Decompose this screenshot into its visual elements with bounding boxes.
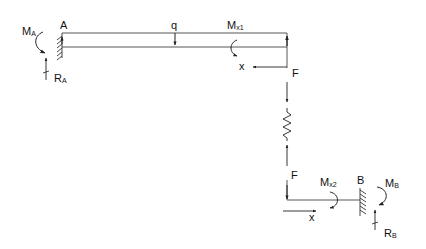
label-moment-mx1-main: M <box>227 19 236 31</box>
label-moment-mx2-main: M <box>320 176 329 188</box>
moment-ma-icon <box>36 32 45 53</box>
label-moment-ma-main: M <box>22 25 31 37</box>
label-reaction-rb-sub: B <box>392 232 397 239</box>
label-moment-mx1-sub: x1 <box>236 24 243 31</box>
spring-icon <box>283 108 291 141</box>
label-reaction-rb: RB <box>384 228 397 239</box>
label-moment-mx2-sub: x2 <box>329 181 336 188</box>
moment-mx1-icon <box>231 40 237 56</box>
label-moment-mb-main: M <box>385 177 394 189</box>
label-coord-x1: x <box>239 61 245 72</box>
label-reaction-rb-main: R <box>384 227 392 239</box>
label-moment-ma-sub: A <box>31 30 36 37</box>
fixed-support-a <box>57 33 62 60</box>
moment-mb-icon <box>377 187 386 205</box>
diagram-canvas <box>0 0 426 249</box>
label-moment-mx1: Mx1 <box>227 20 244 31</box>
label-moment-ma: MA <box>22 26 36 37</box>
label-reaction-ra: RA <box>54 73 67 84</box>
label-force-f-bottom: F <box>291 170 298 181</box>
label-point-b: B <box>357 175 364 186</box>
label-force-f-top: F <box>292 68 299 79</box>
label-coord-x2: x <box>309 212 315 223</box>
label-reaction-ra-sub: A <box>62 77 67 84</box>
label-load-q: q <box>171 20 177 31</box>
label-moment-mb-sub: B <box>394 182 399 189</box>
fixed-support-b <box>360 188 366 216</box>
label-moment-mb: MB <box>385 178 399 189</box>
label-reaction-ra-main: R <box>54 72 62 84</box>
label-point-a: A <box>60 20 67 31</box>
label-moment-mx2: Mx2 <box>320 177 337 188</box>
